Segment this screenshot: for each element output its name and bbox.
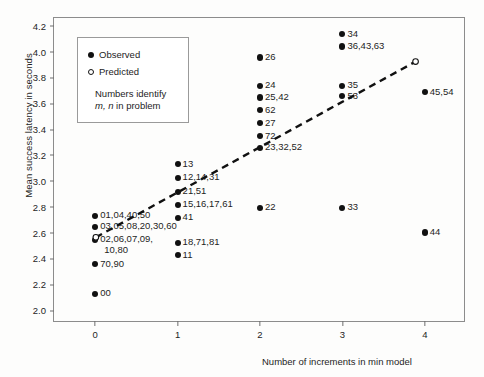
y-tick: 3.8: [33, 72, 54, 83]
point-label: 72: [265, 130, 276, 141]
y-tick: 3.4: [33, 124, 54, 135]
point-marker: [175, 202, 181, 208]
point-label: 41: [183, 211, 194, 222]
point-label: 45,54: [430, 86, 454, 97]
point-marker: [92, 237, 98, 243]
point-marker: [339, 93, 345, 99]
point-label: 21,51: [183, 185, 207, 196]
point-label: 22: [265, 201, 276, 212]
y-tick: 4.0: [33, 46, 54, 57]
point-marker: [339, 31, 345, 37]
point-marker: [92, 213, 98, 219]
point-label: 23,32,52: [265, 141, 302, 152]
point-marker: [92, 291, 98, 297]
y-tick: 4.2: [33, 20, 54, 31]
point-marker: [175, 215, 181, 221]
legend-entry-predicted: Predicted: [88, 66, 139, 77]
point-marker: [257, 107, 263, 113]
point-marker: [175, 161, 181, 167]
point-marker: [92, 261, 98, 267]
y-tick: 2.8: [33, 201, 54, 212]
point-label: 44: [430, 226, 441, 237]
point-label: 35: [347, 79, 358, 90]
point-label: 15,16,17,61: [183, 198, 233, 209]
point-label: 24: [265, 79, 276, 90]
y-tick: 3.6: [33, 98, 54, 109]
x-tick: 3: [340, 321, 345, 340]
point-marker: [92, 224, 98, 230]
legend-note-line2: m, n in problem: [95, 100, 166, 112]
x-tick: 1: [175, 321, 180, 340]
point-label: 02,06,07,09,: [100, 233, 153, 244]
y-tick: 3.0: [33, 175, 54, 186]
point-label: 01,04,40,50: [100, 209, 150, 220]
legend-label-observed: Observed: [99, 49, 140, 60]
point-label: 26: [265, 51, 276, 62]
filled-circle-icon: [88, 52, 94, 58]
legend-note-line1: Numbers identify: [95, 88, 166, 100]
point-marker: [257, 133, 263, 139]
point-label-cont: 10,80: [104, 244, 128, 255]
point-marker: [175, 240, 181, 246]
point-label: 13: [183, 158, 194, 169]
legend-box: Observed Predicted Numbers identify m, n…: [77, 37, 189, 123]
point-marker: [257, 205, 263, 211]
point-label: 27: [265, 117, 276, 128]
point-marker: [175, 189, 181, 195]
legend-note: Numbers identify m, n in problem: [95, 88, 166, 112]
x-tick: 0: [93, 321, 98, 340]
x-axis-title: Number of increments in min model: [262, 356, 412, 367]
y-tick: 2.2: [33, 279, 54, 290]
point-marker: [422, 89, 428, 95]
point-label: 62: [265, 104, 276, 115]
point-marker: [175, 175, 181, 181]
point-label: 34: [347, 28, 358, 39]
point-label: 36,43,63: [347, 40, 384, 51]
y-tick: 2.0: [33, 305, 54, 316]
point-label: 25,42: [265, 91, 289, 102]
point-label: 53: [347, 90, 358, 101]
point-label: 70,90: [100, 258, 124, 269]
figure-root: Mean success latency in seconds Number o…: [0, 0, 484, 377]
legend-label-predicted: Predicted: [99, 66, 139, 77]
point-label: 12,14,31: [183, 171, 220, 182]
point-marker: [339, 205, 345, 211]
y-tick: 2.4: [33, 253, 54, 264]
legend-note-italic: m, n: [95, 100, 113, 111]
point-label: 33: [347, 201, 358, 212]
point-marker: [339, 43, 345, 49]
point-marker: [339, 83, 345, 89]
y-tick: 3.2: [33, 149, 54, 160]
point-marker: [422, 229, 428, 235]
x-tick: 4: [422, 321, 427, 340]
legend-entry-observed: Observed: [88, 49, 140, 60]
point-label: 03,05,08,20,30,60: [100, 220, 177, 231]
point-label: 18,71,81: [183, 236, 220, 247]
x-tick: 2: [257, 321, 262, 340]
point-label: 11: [183, 249, 193, 260]
open-circle-icon: [88, 69, 94, 75]
point-marker: [257, 83, 263, 89]
point-marker: [257, 54, 263, 60]
point-marker: [257, 120, 263, 126]
point-marker: [257, 145, 263, 151]
legend-note-rest: in problem: [113, 100, 160, 111]
point-marker: [175, 252, 181, 258]
y-tick: 2.6: [33, 227, 54, 238]
point-label: 00: [100, 287, 111, 298]
point-marker: [257, 94, 263, 100]
